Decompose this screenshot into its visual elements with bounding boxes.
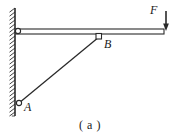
statics-bracket-figure: F B A ( a )	[0, 0, 180, 139]
joint-label-a: A	[24, 101, 31, 113]
pin-joint-wall-beam	[15, 28, 20, 33]
figure-caption: ( a )	[0, 118, 180, 133]
joint-label-b: B	[104, 38, 111, 50]
horizontal-beam	[16, 29, 164, 34]
wall-hatching	[10, 8, 16, 116]
joint-marker-b	[96, 34, 102, 40]
pin-joint-a	[16, 100, 21, 105]
force-label-f: F	[150, 4, 157, 16]
diagonal-brace-member	[19, 37, 99, 103]
force-arrow-icon	[163, 11, 169, 31]
